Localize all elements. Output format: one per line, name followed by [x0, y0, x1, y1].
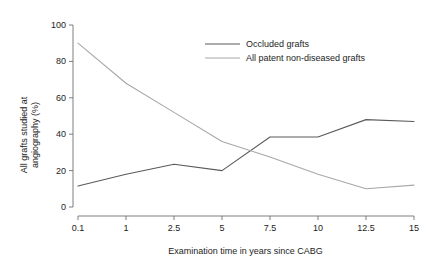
- x-tick-label: 0.1: [72, 224, 85, 233]
- x-tick-label: 10: [313, 224, 323, 233]
- y-tick-label: 60: [56, 93, 66, 102]
- data-series-group: [78, 43, 414, 189]
- y-tick-label: 80: [56, 57, 66, 66]
- x-tick-label: 1: [123, 224, 128, 233]
- legend-label: Occluded grafts: [246, 39, 309, 49]
- y-tick-label: 20: [56, 166, 66, 175]
- y-axis-title: All grafts studied at angiography (%): [19, 60, 42, 210]
- y-tick-label: 100: [51, 21, 66, 30]
- x-tick-label: 7.5: [264, 224, 277, 233]
- legend-label: All patent non-diseased grafts: [246, 53, 365, 63]
- y-tick-label: 0: [61, 203, 66, 212]
- x-tick-label: 5: [219, 224, 224, 233]
- x-tick-label: 12.5: [357, 224, 375, 233]
- y-axis-ticks: [69, 25, 73, 207]
- x-axis-ticks: [78, 216, 414, 220]
- y-axis-title-line2: angiography (%): [30, 60, 41, 210]
- y-tick-label: 40: [56, 130, 66, 139]
- x-tick-label: 15: [409, 224, 419, 233]
- chart-figure: 020406080100 0.112.557.51012.515 Occlude…: [0, 0, 431, 269]
- x-axis-title: Examination time in years since CABG: [73, 246, 418, 256]
- legend-swatches: [205, 44, 240, 58]
- series-line-patent-non-diseased-grafts: [78, 43, 414, 189]
- x-tick-label: 2.5: [168, 224, 181, 233]
- y-axis-title-line1: All grafts studied at: [19, 60, 30, 210]
- series-line-occluded-grafts: [78, 120, 414, 186]
